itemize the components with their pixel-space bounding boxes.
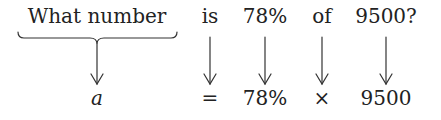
equation-percent: 78% xyxy=(243,88,287,108)
equation-equals: = xyxy=(202,88,219,108)
equation-times: × xyxy=(314,88,331,108)
underbrace-icon xyxy=(18,32,177,44)
equation-variable-a: a xyxy=(91,88,103,108)
down-arrow-icon xyxy=(316,37,328,84)
down-arrow-icon xyxy=(259,37,271,84)
translation-diagram: What number is 78% of 9500? xyxy=(0,0,441,120)
equation-number: 9500 xyxy=(361,88,412,108)
down-arrow-icon xyxy=(204,37,216,84)
down-arrow-icon xyxy=(91,44,103,84)
down-arrow-icon xyxy=(380,37,392,84)
